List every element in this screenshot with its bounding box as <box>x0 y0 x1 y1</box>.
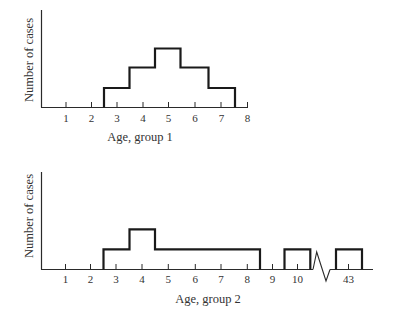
x-tick-labels: 1 2 3 4 5 6 7 8 <box>63 112 251 124</box>
tick-label: 3 <box>114 112 120 124</box>
tick-label: 5 <box>166 273 172 285</box>
tick-label: 4 <box>139 273 145 285</box>
tick-label: 4 <box>140 112 146 124</box>
tick-label: 1 <box>63 112 69 124</box>
histogram-outline <box>104 49 235 108</box>
tick-label: 8 <box>245 273 251 285</box>
x-ticks <box>66 264 349 270</box>
x-axis-title: Age, group 1 <box>107 130 173 144</box>
tick-label: 2 <box>89 112 95 124</box>
histogram-figure: 1 2 3 4 5 6 7 8 Age, group 1 Number of c… <box>0 0 398 321</box>
chart-age-group-1: 1 2 3 4 5 6 7 8 Age, group 1 Number of c… <box>22 10 251 144</box>
tick-label: 7 <box>219 112 225 124</box>
histogram-outline-main <box>104 229 261 269</box>
tick-label: 6 <box>193 273 199 285</box>
x-ticks <box>66 102 248 108</box>
y-axis-title: Number of cases <box>22 18 36 102</box>
tick-label: 7 <box>218 273 224 285</box>
tick-label: 1 <box>63 273 69 285</box>
tick-label: 8 <box>245 112 251 124</box>
y-axis-title: Number of cases <box>22 174 36 258</box>
tick-label: 6 <box>192 112 198 124</box>
tick-label: 9 <box>270 273 276 285</box>
tick-label: 3 <box>113 273 119 285</box>
axis-break-icon <box>313 252 330 281</box>
tick-label: 10 <box>292 273 304 285</box>
tick-label: 5 <box>166 112 172 124</box>
tick-label: 2 <box>88 273 94 285</box>
tick-label: 43 <box>343 273 355 285</box>
x-tick-labels: 1 2 3 4 5 6 7 8 9 10 43 <box>63 273 355 285</box>
x-axis-title: Age, group 2 <box>175 292 241 306</box>
chart-age-group-2: 1 2 3 4 5 6 7 8 9 10 43 Age, group 2 Num… <box>22 172 373 306</box>
